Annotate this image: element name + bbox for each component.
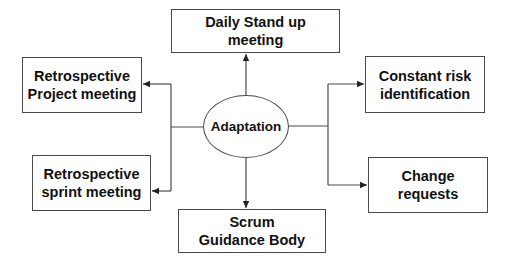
node-retrospective-sprint: Retrospective sprint meeting	[32, 155, 151, 211]
node-constant-risk: Constant risk identification	[365, 56, 485, 113]
node-retrospective-project-label: Retrospective Project meeting	[28, 67, 137, 103]
node-scrum-guidance: Scrum Guidance Body	[178, 209, 326, 253]
node-adaptation: Adaptation	[203, 95, 289, 158]
node-daily-standup: Daily Stand up meeting	[171, 9, 340, 53]
node-scrum-guidance-label: Scrum Guidance Body	[199, 213, 305, 249]
node-change-requests-label: Change requests	[398, 167, 458, 203]
node-change-requests: Change requests	[368, 157, 488, 213]
node-retrospective-project: Retrospective Project meeting	[22, 57, 142, 113]
node-adaptation-label: Adaptation	[211, 119, 282, 134]
node-daily-standup-label: Daily Stand up meeting	[205, 13, 306, 49]
adaptation-diagram: Daily Stand up meeting Retrospective Pro…	[0, 0, 509, 268]
node-constant-risk-label: Constant risk identification	[379, 67, 472, 103]
node-retrospective-sprint-label: Retrospective sprint meeting	[42, 165, 142, 201]
